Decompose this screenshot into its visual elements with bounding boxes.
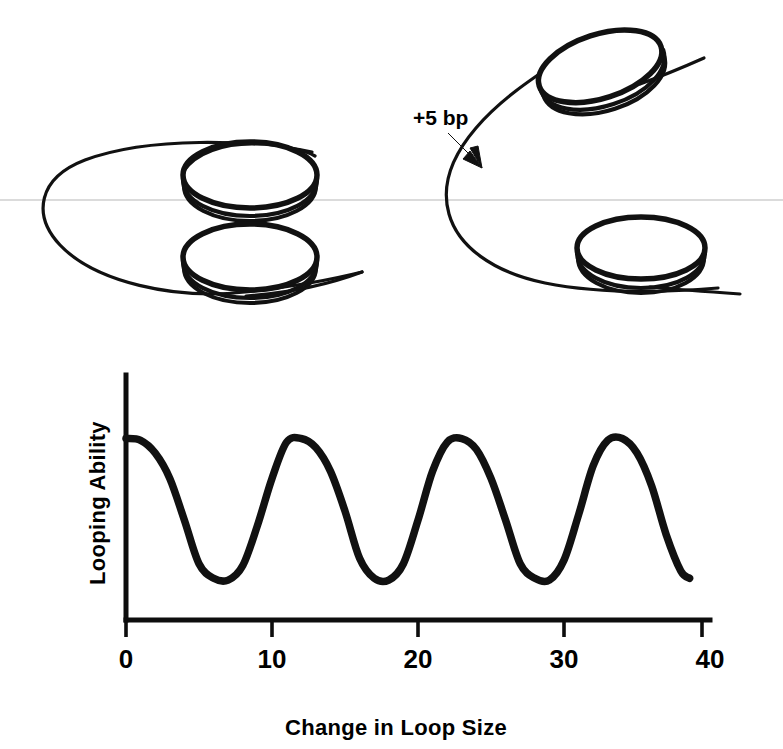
schematic-svg: +5 bp: [0, 0, 783, 345]
right-lower-disc-face: [577, 217, 705, 279]
right-lower-disc: [577, 217, 705, 293]
x-tick-label-30: 30: [550, 644, 579, 674]
left-lower-disc-face: [183, 224, 317, 290]
looping-ability-chart: 0 10 20 30 40 Change in Loop Size Loopin…: [0, 345, 783, 749]
x-axis-ticks: [126, 620, 702, 637]
chart-svg: 0 10 20 30 40 Change in Loop Size Loopin…: [0, 345, 783, 749]
dna-looping-schematic: +5 bp: [0, 0, 783, 345]
y-axis-title: Looping Ability: [85, 421, 110, 585]
plus-five-bp-label: +5 bp: [413, 106, 468, 129]
x-axis-tick-labels: 0 10 20 30 40: [119, 644, 725, 674]
left-upper-disc-face: [183, 142, 317, 208]
figure-root: +5 bp 0 10: [0, 0, 783, 749]
looping-ability-curve: [126, 437, 690, 582]
x-tick-label-0: 0: [119, 644, 133, 674]
left-loop-model: [43, 142, 362, 303]
x-tick-label-20: 20: [404, 644, 433, 674]
right-upper-disc: [529, 16, 675, 129]
right-loop-model: [446, 16, 740, 294]
x-tick-label-10: 10: [258, 644, 287, 674]
x-axis-title: Change in Loop Size: [285, 715, 507, 740]
x-tick-label-40: 40: [696, 644, 725, 674]
plus-five-bp-callout: +5 bp: [413, 106, 482, 168]
